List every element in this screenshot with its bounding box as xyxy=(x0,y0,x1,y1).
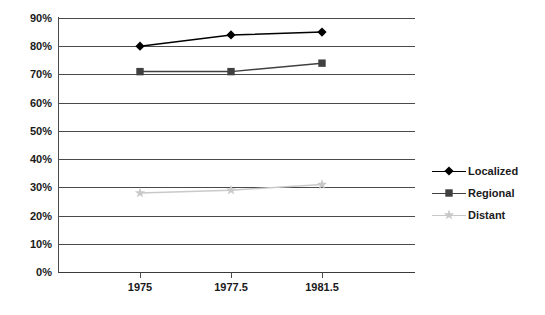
y-axis-tick-label: 90% xyxy=(6,13,52,24)
legend-key-icon xyxy=(432,185,466,201)
gridline xyxy=(58,74,415,75)
gridline xyxy=(58,159,415,160)
y-axis-tick-label: 60% xyxy=(6,97,52,108)
legend-label: Distant xyxy=(466,209,505,221)
gridline xyxy=(58,46,415,47)
y-axis-tick-label: 0% xyxy=(6,267,52,278)
y-axis-tick-label: 40% xyxy=(6,154,52,165)
legend-star-icon xyxy=(441,207,457,223)
y-axis-tick-label: 20% xyxy=(6,210,52,221)
gridline xyxy=(58,272,415,273)
legend-square-icon xyxy=(441,185,457,201)
gridline xyxy=(58,216,415,217)
y-axis-line xyxy=(58,17,59,273)
y-axis-tick-label: 30% xyxy=(6,182,52,193)
y-axis-tick-label: 10% xyxy=(6,238,52,249)
legend-label: Localized xyxy=(466,165,518,177)
plot-area xyxy=(58,18,415,272)
legend-item-localized[interactable]: Localized xyxy=(432,160,540,182)
chart-legend: LocalizedRegionalDistant xyxy=(432,160,540,226)
y-axis-tick-label: 80% xyxy=(6,41,52,52)
gridline xyxy=(58,103,415,104)
square-marker xyxy=(445,189,452,196)
x-axis-tick-label: 1975 xyxy=(128,281,152,293)
legend-label: Regional xyxy=(466,187,514,199)
gridline xyxy=(58,187,415,188)
gridline xyxy=(58,131,415,132)
line-chart: 90%80%70%60%50%40%30%20%10%0% 19751977.5… xyxy=(0,0,545,315)
gridline xyxy=(58,244,415,245)
x-axis-tick-label: 1981.5 xyxy=(305,281,339,293)
legend-key-icon xyxy=(432,163,466,179)
diamond-marker xyxy=(444,166,453,175)
legend-item-distant[interactable]: Distant xyxy=(432,204,540,226)
legend-item-regional[interactable]: Regional xyxy=(432,182,540,204)
y-axis-tick-labels: 90%80%70%60%50%40%30%20%10%0% xyxy=(0,0,52,315)
y-axis-tick-label: 50% xyxy=(6,125,52,136)
y-axis-tick-label: 70% xyxy=(6,69,52,80)
gridline xyxy=(58,18,415,19)
legend-key-icon xyxy=(432,207,466,223)
x-axis-tick-mark xyxy=(140,272,141,278)
legend-diamond-icon xyxy=(441,163,457,179)
x-axis-tick-mark xyxy=(231,272,232,278)
star-marker xyxy=(444,210,454,220)
x-axis-tick-mark xyxy=(322,272,323,278)
x-axis-tick-label: 1977.5 xyxy=(214,281,248,293)
